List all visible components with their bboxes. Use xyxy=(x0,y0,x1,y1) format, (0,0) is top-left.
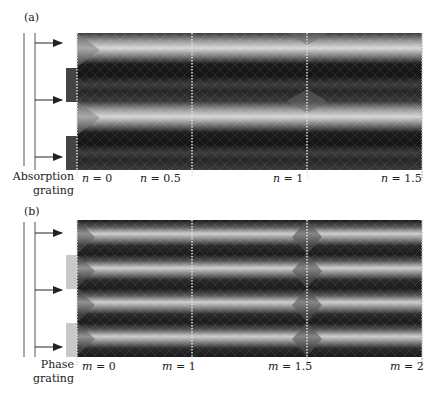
phase-grating-bar xyxy=(66,323,77,357)
panel-b xyxy=(24,220,422,365)
panel-label-a: (a) xyxy=(24,11,39,24)
tick-label-n0: n = 0 xyxy=(82,172,112,185)
tick-label-m0: m = 0 xyxy=(82,360,116,373)
absorption-grating-label: Absorption grating xyxy=(2,170,74,198)
panel-label-b: (b) xyxy=(24,205,40,218)
phase-grating-bar xyxy=(66,255,77,289)
absorption-grating-bar xyxy=(66,68,77,102)
tick-label-m2: m = 2 xyxy=(390,360,424,373)
talbot-carpet-figure xyxy=(0,0,442,401)
absorption-grating-bar xyxy=(66,136,77,170)
panel-a xyxy=(24,33,422,178)
tick-label-n1: n = 1 xyxy=(273,172,303,185)
tick-label-n1.5: n = 1.5 xyxy=(381,172,422,185)
tick-label-m1: m = 1 xyxy=(162,360,196,373)
phase-grating-label: Phase grating xyxy=(2,358,74,386)
tick-label-m1.5: m = 1.5 xyxy=(268,360,312,373)
tick-label-n0.5: n = 0.5 xyxy=(140,172,181,185)
